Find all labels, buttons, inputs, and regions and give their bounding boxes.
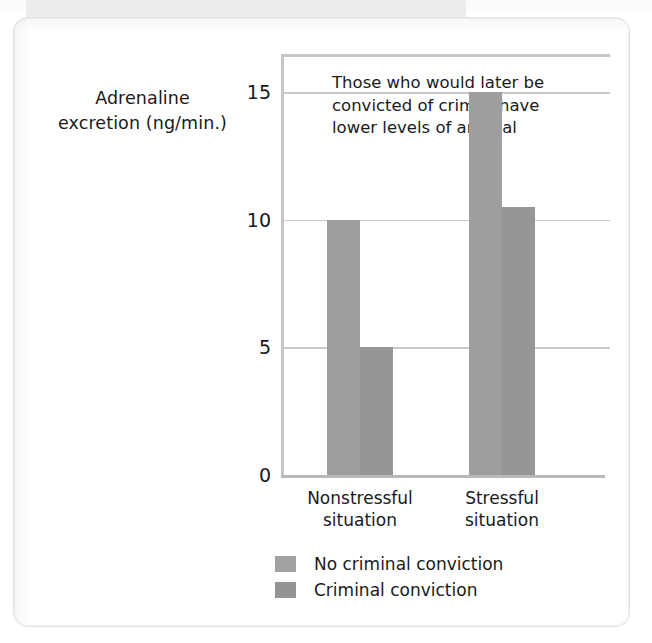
bar-chart-figure: Adrenaline excretion (ng/min.) Those who… <box>0 0 652 643</box>
y-axis-tick-label: 5 <box>259 336 271 358</box>
legend-label-criminal-conviction: Criminal conviction <box>314 580 477 600</box>
legend-swatch-no-criminal-conviction <box>275 556 296 572</box>
legend-item: Criminal conviction <box>275 577 503 603</box>
y-axis-title-line-2: excretion (ng/min.) <box>40 111 245 136</box>
chart-annotation-line-2: convicted of crimes have <box>332 95 582 118</box>
bar <box>469 92 502 475</box>
chart-annotation-line-3: lower levels of arousal <box>332 117 582 140</box>
legend-swatch-criminal-conviction <box>275 582 296 598</box>
plot-area: Those who would later be convicted of cr… <box>281 54 610 478</box>
x-axis-tick-label: Nonstressfulsituation <box>307 487 413 531</box>
legend-label-no-criminal-conviction: No criminal conviction <box>314 554 503 574</box>
x-axis-tick-label: Stressfulsituation <box>465 487 539 531</box>
plot-border-top <box>281 54 610 57</box>
bar <box>327 220 360 475</box>
x-axis-tick-label-line-1: Nonstressful <box>307 487 413 509</box>
bar <box>502 207 535 475</box>
legend-item: No criminal conviction <box>275 551 503 577</box>
gridline-0: 0 <box>284 475 610 477</box>
x-axis-tick-label-line-2: situation <box>307 509 413 531</box>
x-axis-tick-label-line-1: Stressful <box>465 487 539 509</box>
y-axis-tick-label: 0 <box>259 464 271 486</box>
chart-annotation: Those who would later be convicted of cr… <box>332 72 582 140</box>
y-axis-tick-label: 15 <box>247 81 271 103</box>
chart-annotation-line-1: Those who would later be <box>332 72 582 95</box>
gridline-15: 15 <box>284 92 610 94</box>
y-axis-title-line-1: Adrenaline <box>40 86 245 111</box>
y-axis-title: Adrenaline excretion (ng/min.) <box>40 86 245 136</box>
y-axis-line <box>281 54 284 478</box>
y-axis-tick-label: 10 <box>247 209 271 231</box>
chart-legend: No criminal conviction Criminal convicti… <box>275 551 503 603</box>
bar <box>360 347 393 475</box>
x-axis-tick-label-line-2: situation <box>465 509 539 531</box>
